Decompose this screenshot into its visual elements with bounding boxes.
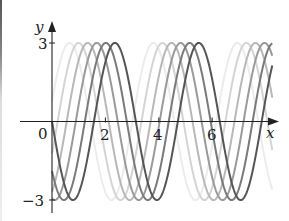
x-tick-label-6: 6	[207, 126, 217, 144]
y-tick-label-3: 3	[38, 35, 48, 53]
x-tick-label-4: 4	[153, 126, 163, 144]
y-axis-label: y	[34, 18, 44, 36]
sine-chart: y x 0 2 4 6 3 −3	[0, 0, 289, 221]
origin-label: 0	[38, 125, 48, 143]
y-axis-arrow-icon	[48, 21, 56, 32]
y-tick-label-neg3: −3	[22, 192, 44, 210]
x-axis-label: x	[266, 124, 275, 142]
x-tick-label-2: 2	[100, 126, 110, 144]
